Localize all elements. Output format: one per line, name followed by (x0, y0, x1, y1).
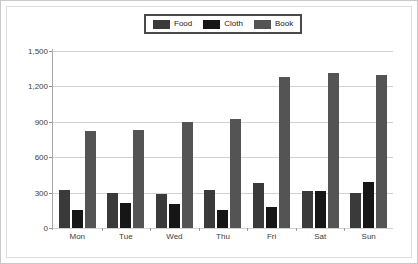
y-tick-mark (49, 228, 52, 229)
y-tick-label: 0 (44, 224, 48, 233)
y-tick-label: 600 (35, 153, 48, 162)
legend-item-cloth[interactable]: Cloth (203, 20, 243, 29)
bar-food-sun[interactable] (350, 193, 361, 228)
bar-cloth-mon[interactable] (72, 210, 83, 228)
x-tick-label-wed: Wed (166, 232, 182, 241)
x-tick-mark (199, 228, 200, 231)
chart-frame: Food Cloth Book 03006009001,2001,500 Mon… (0, 0, 418, 264)
legend-item-food[interactable]: Food (153, 20, 192, 29)
y-tick-mark (49, 157, 52, 158)
x-tick-mark (344, 228, 345, 231)
bar-food-thu[interactable] (204, 190, 215, 228)
bar-group (199, 51, 248, 228)
bar-group (344, 51, 393, 228)
x-tick-label-sat: Sat (314, 232, 326, 241)
bar-group (53, 51, 102, 228)
legend-swatch-cloth-icon (203, 20, 220, 29)
y-tick-label: 1,200 (28, 82, 48, 91)
y-tick-mark (49, 51, 52, 52)
legend-swatch-food-icon (153, 20, 170, 29)
x-tick-mark (296, 228, 297, 231)
bar-cloth-sun[interactable] (363, 182, 374, 228)
y-tick-label: 300 (35, 188, 48, 197)
x-tick-label-mon: Mon (70, 232, 86, 241)
bar-group (102, 51, 151, 228)
y-tick-label: 1,500 (28, 47, 48, 56)
legend-label-book: Book (275, 20, 293, 28)
bar-group (150, 51, 199, 228)
x-tick-mark (247, 228, 248, 231)
y-tick-mark (49, 193, 52, 194)
x-tick-label-thu: Thu (216, 232, 230, 241)
bar-cloth-sat[interactable] (315, 191, 326, 228)
bar-cloth-thu[interactable] (217, 210, 228, 228)
gridline (53, 228, 393, 229)
bar-cloth-fri[interactable] (266, 207, 277, 228)
x-tick-label-tue: Tue (119, 232, 133, 241)
legend-label-cloth: Cloth (224, 20, 243, 28)
bar-book-sun[interactable] (376, 75, 387, 228)
legend-item-book[interactable]: Book (254, 20, 293, 29)
bar-book-mon[interactable] (85, 131, 96, 228)
bar-cloth-tue[interactable] (120, 203, 131, 228)
y-axis-labels: 03006009001,2001,500 (1, 1, 48, 264)
x-tick-label-sun: Sun (362, 232, 376, 241)
bar-group (247, 51, 296, 228)
bar-book-sat[interactable] (328, 73, 339, 228)
bar-book-wed[interactable] (182, 122, 193, 228)
bar-book-tue[interactable] (133, 130, 144, 228)
bar-food-mon[interactable] (59, 190, 70, 228)
plot-area (53, 51, 393, 228)
y-tick-mark (49, 122, 52, 123)
y-tick-mark (49, 86, 52, 87)
x-tick-mark (150, 228, 151, 231)
bar-cloth-wed[interactable] (169, 204, 180, 228)
legend-label-food: Food (174, 20, 192, 28)
x-axis-labels: MonTueWedThuFriSatSun (53, 232, 393, 252)
bar-food-sat[interactable] (302, 191, 313, 228)
bar-food-tue[interactable] (107, 193, 118, 228)
chart-legend: Food Cloth Book (144, 14, 302, 34)
legend-swatch-book-icon (254, 20, 271, 29)
x-tick-label-fri: Fri (267, 232, 276, 241)
bar-food-wed[interactable] (156, 194, 167, 228)
y-tick-label: 900 (35, 117, 48, 126)
bar-book-fri[interactable] (279, 77, 290, 228)
bar-food-fri[interactable] (253, 183, 264, 228)
bar-book-thu[interactable] (230, 119, 241, 228)
x-tick-mark (102, 228, 103, 231)
bar-group (296, 51, 345, 228)
